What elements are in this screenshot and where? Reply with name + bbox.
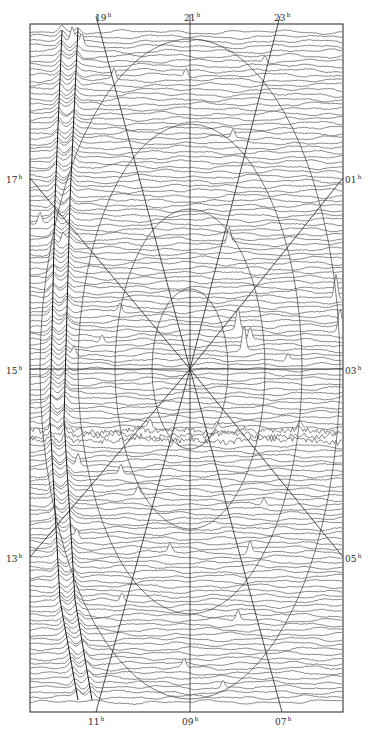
- hour-label-09h: 09h: [182, 716, 198, 727]
- hour-label-21h: 21h: [184, 12, 200, 23]
- hour-label-03h: 03h: [345, 365, 361, 376]
- hour-label-01h: 01h: [345, 174, 361, 185]
- hour-label-23h: 23h: [274, 12, 290, 23]
- hour-label-07h: 07h: [275, 716, 291, 727]
- hour-label-17h: 17h: [6, 174, 22, 185]
- hour-label-19h: 19h: [95, 12, 111, 23]
- radio-sky-map-figure: [0, 0, 371, 734]
- hour-label-05h: 05h: [345, 553, 361, 564]
- hour-label-15h: 15h: [6, 365, 22, 376]
- stacked-traces: [30, 26, 343, 709]
- hour-label-13h: 13h: [6, 553, 22, 564]
- hour-label-11h: 11h: [88, 716, 104, 727]
